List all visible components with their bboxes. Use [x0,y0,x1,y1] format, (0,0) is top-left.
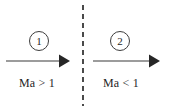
flow-arrow-upstream [6,55,70,68]
region-1-mach-label: Ma > 1 [19,76,55,90]
flow-arrow-downstream [93,55,160,68]
diagram-canvas [0,0,173,111]
shock-wave-diagram: 1 2 Ma > 1 Ma < 1 [0,0,173,111]
region-2-mach-label: Ma < 1 [103,76,139,90]
region-2-number-text: 2 [117,36,123,47]
region-1-number-text: 1 [36,36,42,47]
region-1-number-badge: 1 [29,31,49,51]
flow-arrow-downstream-head [149,55,160,68]
region-2-number-badge: 2 [110,31,130,51]
flow-arrow-upstream-head [59,55,70,68]
